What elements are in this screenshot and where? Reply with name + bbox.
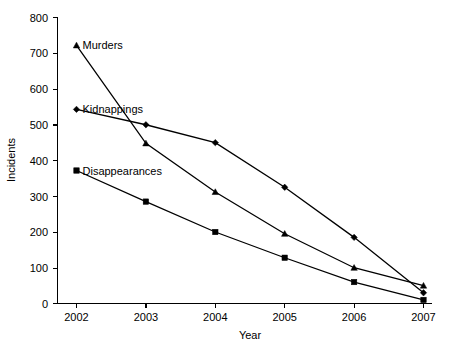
x-tick-label-2003: 2003 xyxy=(134,311,158,323)
data-point-disappearances-2004 xyxy=(213,229,218,234)
series-line-disappearances xyxy=(77,171,424,300)
y-tick-label-0: 0 xyxy=(42,298,48,310)
data-point-murders-2005 xyxy=(282,231,288,237)
data-point-disappearances-2006 xyxy=(351,279,356,284)
x-axis-ticks xyxy=(77,304,424,309)
y-tick-label-100: 100 xyxy=(30,262,48,274)
y-tick-label-200: 200 xyxy=(30,226,48,238)
data-point-murders-2002 xyxy=(73,42,79,48)
y-tick-label-700: 700 xyxy=(30,47,48,59)
series-label-disappearances: Disappearances xyxy=(83,165,163,177)
y-axis-title: Incidents xyxy=(5,137,17,182)
x-tick-label-2004: 2004 xyxy=(203,311,227,323)
y-tick-label-400: 400 xyxy=(30,155,48,167)
line-chart: 800 700 600 500 400 300 200 100 0 2002 2… xyxy=(0,0,454,347)
data-point-disappearances-2005 xyxy=(282,255,287,260)
series-disappearances xyxy=(74,168,426,303)
y-tick-label-500: 500 xyxy=(30,119,48,131)
series-label-kidnappings: Kidnappings xyxy=(83,103,144,115)
data-point-kidnappings-2003 xyxy=(143,122,149,128)
y-tick-label-800: 800 xyxy=(30,12,48,24)
data-point-disappearances-2007 xyxy=(421,297,426,302)
y-tick-label-600: 600 xyxy=(30,83,48,95)
series-line-kidnappings xyxy=(77,109,424,292)
data-point-murders-2006 xyxy=(351,265,357,271)
chart-canvas: 800 700 600 500 400 300 200 100 0 2002 2… xyxy=(0,0,454,347)
data-point-disappearances-2002 xyxy=(74,168,79,173)
data-point-kidnappings-2004 xyxy=(212,139,218,145)
y-axis-ticks xyxy=(53,18,58,304)
data-point-kidnappings-2002 xyxy=(73,106,79,112)
series-labels-layer: MurdersKidnappingsDisappearances xyxy=(83,39,163,176)
x-tick-label-2002: 2002 xyxy=(64,311,88,323)
x-tick-label-2007: 2007 xyxy=(411,311,435,323)
data-point-disappearances-2003 xyxy=(143,199,148,204)
x-tick-label-2005: 2005 xyxy=(272,311,296,323)
x-tick-label-2006: 2006 xyxy=(342,311,366,323)
series-kidnappings xyxy=(73,106,426,296)
x-axis-title: Year xyxy=(239,329,262,341)
series-label-murders: Murders xyxy=(83,39,124,51)
y-tick-label-300: 300 xyxy=(30,191,48,203)
